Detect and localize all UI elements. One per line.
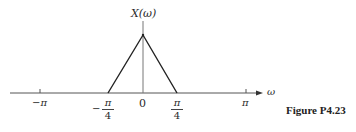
- fraction-denominator: 4: [102, 110, 114, 121]
- fraction-denominator: 4: [171, 110, 183, 121]
- figure-caption: Figure P4.23: [286, 104, 346, 116]
- fraction-numerator: π: [102, 98, 114, 110]
- y-axis-label: X(ω): [131, 8, 156, 19]
- tick-label-pi: π: [242, 98, 249, 108]
- x-axis-label: ω: [267, 87, 275, 97]
- fraction-numerator: π: [171, 98, 183, 110]
- tick-label-neg-sign: −: [92, 104, 100, 114]
- tick-label-pi-over-4: π 4: [171, 98, 183, 121]
- axis-arrow-icon: [256, 91, 263, 96]
- tick-label-zero: 0: [139, 98, 146, 109]
- peak-point: [142, 34, 144, 36]
- tick-label-neg-pi: −π: [32, 98, 47, 108]
- tick-label-neg-pi-over-4: π 4: [102, 98, 114, 121]
